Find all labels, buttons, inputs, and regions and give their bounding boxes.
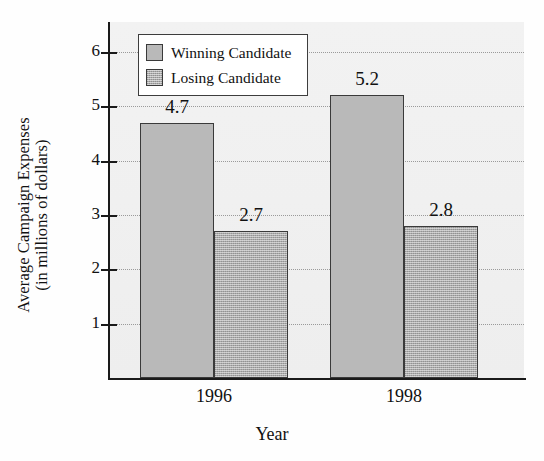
bar-1998-winning: [330, 95, 404, 378]
x-axis-line: [108, 378, 526, 380]
bar-1996-losing: [214, 231, 288, 378]
y-tick-mark-5: [101, 106, 117, 108]
legend-label-losing: Losing Candidate: [171, 69, 281, 87]
bar-1996-winning: [140, 123, 214, 378]
x-tick-label-1996: 1996: [140, 386, 288, 407]
y-axis-line: [108, 22, 110, 380]
bar-1998-losing: [404, 226, 478, 378]
x-axis-title: Year: [0, 424, 544, 445]
y-axis-title-line-1: Average Campaign Expenses: [15, 117, 33, 313]
x-tick-label-1998: 1998: [330, 386, 478, 407]
y-tick-mark-4: [101, 161, 117, 163]
bar-value-label-1996-losing: 2.7: [214, 204, 288, 226]
bar-value-label-1996-winning: 4.7: [140, 96, 214, 118]
y-tick-label-1: 1: [74, 313, 100, 333]
legend-item-losing: Losing Candidate: [146, 66, 300, 90]
legend-swatch-losing-icon: [146, 69, 163, 86]
y-tick-label-3: 3: [74, 204, 100, 224]
y-tick-label-2: 2: [74, 258, 100, 278]
legend-swatch-winning-icon: [146, 44, 163, 61]
y-axis-title-line-2: (in millions of dollars): [33, 139, 51, 290]
legend-item-winning: Winning Candidate: [146, 41, 300, 65]
y-tick-mark-3: [101, 215, 117, 217]
y-tick-mark-1: [101, 324, 117, 326]
bar-chart: Average Campaign Expenses (in millions o…: [0, 0, 544, 461]
y-tick-mark-2: [101, 269, 117, 271]
bar-value-label-1998-losing: 2.8: [404, 199, 478, 221]
y-tick-label-6: 6: [74, 41, 100, 61]
y-tick-mark-6: [101, 52, 117, 54]
y-tick-label-5: 5: [74, 95, 100, 115]
y-axis-title: Average Campaign Expenses (in millions o…: [0, 0, 66, 400]
y-tick-label-4: 4: [74, 150, 100, 170]
legend: Winning Candidate Losing Candidate: [138, 34, 308, 96]
bar-value-label-1998-winning: 5.2: [330, 68, 404, 90]
legend-label-winning: Winning Candidate: [171, 44, 291, 62]
